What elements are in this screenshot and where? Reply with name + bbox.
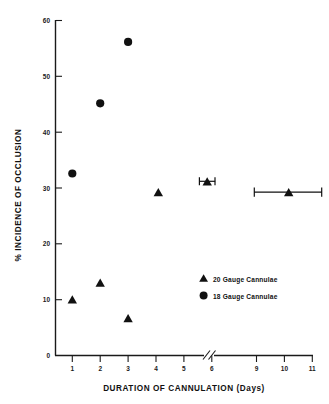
y-tick-label-50: 50 [43, 73, 51, 80]
data-point-triangle-4 [154, 188, 163, 196]
data-point-circle-2 [96, 99, 104, 107]
x-tick-label-2: 2 [98, 365, 102, 372]
y-tick-label-10: 10 [43, 296, 51, 303]
x-axis-title: DURATION OF CANNULATION (Days) [103, 384, 265, 393]
y-tick-label-30: 30 [43, 185, 51, 192]
x-tick-label-1: 1 [70, 365, 74, 372]
y-axis: 60 50 40 30 20 10 0 [43, 17, 62, 360]
y-tick-label-60: 60 [43, 17, 51, 24]
legend-label-18-gauge: 18 Gauge Cannulae [213, 293, 278, 301]
data-point-triangle-3 [123, 314, 132, 322]
data-point-triangle-5-with-error-bar [199, 177, 215, 185]
legend: 20 Gauge Cannulae 18 Gauge Cannulae [199, 274, 278, 300]
series-18-gauge-cannulae [68, 38, 132, 178]
x-tick-label-5: 5 [182, 365, 186, 372]
legend-entry-20-gauge[interactable]: 20 Gauge Cannulae [199, 274, 278, 283]
y-axis-title: % INCIDENCE OF OCCLUSION [14, 129, 23, 262]
y-tick-label-0: 0 [46, 352, 50, 359]
triangle-icon [199, 274, 208, 282]
series-20-gauge-cannulae [68, 177, 322, 322]
data-point-triangle-1 [68, 295, 77, 303]
y-tick-label-40: 40 [43, 129, 51, 136]
x-tick-label-9: 9 [255, 365, 259, 372]
x-tick-label-6: 6 [210, 365, 214, 372]
scatter-plot-figure: 60 50 40 30 20 10 0 [0, 0, 329, 404]
chart-canvas: 60 50 40 30 20 10 0 [0, 0, 329, 404]
x-tick-label-4: 4 [154, 365, 158, 372]
data-point-circle-3 [124, 38, 132, 46]
x-tick-label-10: 10 [281, 365, 289, 372]
circle-icon [200, 292, 208, 300]
data-point-circle-1 [68, 169, 76, 177]
data-point-triangle-6-with-error-bar [254, 188, 322, 197]
x-axis: 1 2 3 4 5 6 9 10 11 [55, 351, 316, 372]
x-tick-label-11: 11 [309, 365, 316, 372]
legend-label-20-gauge: 20 Gauge Cannulae [213, 276, 278, 284]
legend-entry-18-gauge[interactable]: 18 Gauge Cannulae [200, 292, 278, 301]
x-axis-break-icon [203, 351, 216, 360]
x-tick-label-3: 3 [126, 365, 130, 372]
data-point-triangle-2 [96, 279, 105, 287]
y-tick-label-20: 20 [43, 240, 51, 247]
